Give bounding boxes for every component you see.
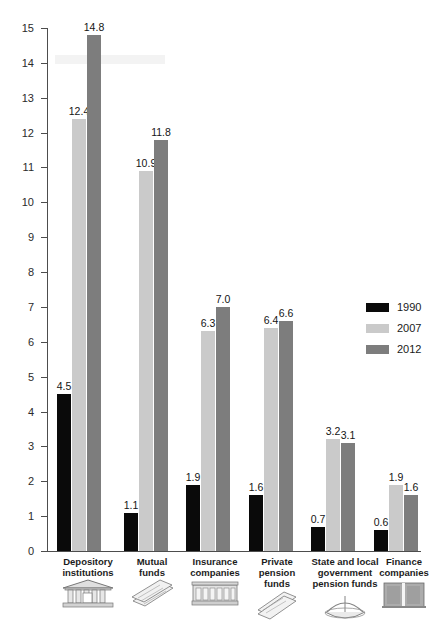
y-tick-0 (41, 551, 47, 552)
y-tick-label-14: 14 (6, 58, 34, 69)
grouped-bar-chart: 0123456789101112131415 4.512.414.81.110.… (0, 0, 443, 624)
bar-2012 (279, 321, 293, 551)
y-tick-7 (41, 307, 47, 308)
category-ledger-book: Insurancecompanies (182, 556, 248, 611)
x-axis-baseline (47, 551, 421, 552)
bank-building-icon (50, 579, 126, 611)
y-tick-2 (41, 481, 47, 482)
y-tick-label-15: 15 (6, 23, 34, 34)
legend-label-1990: 1990 (397, 302, 421, 313)
bar-2007 (201, 331, 215, 551)
legend-swatch-2012 (366, 345, 389, 354)
category-stacked-documents: Mutualfunds (119, 556, 185, 611)
category-label-line: Finance (371, 556, 437, 567)
y-tick-3 (41, 446, 47, 447)
y-tick-6 (41, 342, 47, 343)
legend-label-2007: 2007 (397, 323, 421, 334)
bar-1990 (186, 485, 200, 551)
bar-group: 1.96.37.0 (186, 28, 230, 551)
y-tick-label-6: 6 (6, 337, 34, 348)
bar-value-label: 7.0 (210, 294, 236, 305)
y-tick-label-1: 1 (6, 511, 34, 522)
stacked-documents-icon (119, 579, 185, 611)
bar-group: 1.66.46.6 (249, 28, 293, 551)
category-label-line: Insurance (182, 556, 248, 567)
bar-1990 (311, 527, 325, 551)
y-tick-1 (41, 516, 47, 517)
bar-1990 (57, 394, 71, 551)
y-tick-label-2: 2 (6, 476, 34, 487)
y-tick-10 (41, 202, 47, 203)
bar-2012 (216, 307, 230, 551)
y-tick-label-13: 13 (6, 93, 34, 104)
bar-2007 (264, 328, 278, 551)
y-tick-label-5: 5 (6, 372, 34, 383)
office-building-icon (371, 579, 437, 611)
category-label-line: institutions (50, 567, 126, 578)
category-label-line: companies (182, 567, 248, 578)
category-bank-building: Depositoryinstitutions (50, 556, 126, 611)
legend-item-2: 2012 (366, 341, 438, 358)
y-tick-label-11: 11 (6, 162, 34, 173)
y-tick-13 (41, 98, 47, 99)
legend-swatch-2007 (366, 324, 389, 333)
y-tick-label-9: 9 (6, 232, 34, 243)
bar-value-label: 14.8 (81, 22, 107, 33)
y-tick-9 (41, 237, 47, 238)
bar-value-label: 11.8 (148, 127, 174, 138)
legend-item-1: 2007 (366, 320, 438, 337)
bar-1990 (124, 513, 138, 551)
category-office-building: Financecompanies (371, 556, 437, 611)
bar-group: 0.73.23.1 (311, 28, 355, 551)
bar-2012 (404, 495, 418, 551)
legend-label-2012: 2012 (397, 344, 421, 355)
bar-2012 (154, 140, 168, 551)
y-tick-4 (41, 412, 47, 413)
bar-group: 4.512.414.8 (57, 28, 101, 551)
y-tick-5 (41, 377, 47, 378)
bar-1990 (249, 495, 263, 551)
y-tick-11 (41, 167, 47, 168)
category-label-line: Depository (50, 556, 126, 567)
bar-2007 (72, 119, 86, 551)
y-tick-12 (41, 133, 47, 134)
bar-2012 (341, 443, 355, 551)
bar-2007 (326, 439, 340, 551)
legend-item-0: 1990 (366, 299, 438, 316)
y-tick-label-8: 8 (6, 267, 34, 278)
category-label-line: funds (119, 567, 185, 578)
y-tick-label-10: 10 (6, 197, 34, 208)
bar-value-label: 6.6 (273, 308, 299, 319)
bar-group: 1.110.911.8 (124, 28, 168, 551)
category-label-line: companies (371, 567, 437, 578)
bar-2007 (139, 171, 153, 551)
bar-1990 (374, 530, 388, 551)
chart-legend: 1990 2007 2012 (366, 299, 438, 362)
y-tick-label-12: 12 (6, 128, 34, 139)
bar-2012 (87, 35, 101, 551)
legend-swatch-1990 (366, 303, 389, 312)
bar-2007 (389, 485, 403, 551)
y-tick-14 (41, 63, 47, 64)
y-tick-label-7: 7 (6, 302, 34, 313)
y-tick-label-4: 4 (6, 407, 34, 418)
bar-value-label: 1.6 (398, 482, 424, 493)
bar-value-label: 3.1 (335, 430, 361, 441)
bar-group: 0.61.91.6 (374, 28, 418, 551)
category-label-line: Mutual (119, 556, 185, 567)
y-tick-label-3: 3 (6, 441, 34, 452)
y-tick-15 (41, 28, 47, 29)
y-axis-line (47, 28, 48, 552)
y-tick-label-0: 0 (6, 546, 34, 557)
y-tick-8 (41, 272, 47, 273)
ledger-book-icon (182, 579, 248, 611)
